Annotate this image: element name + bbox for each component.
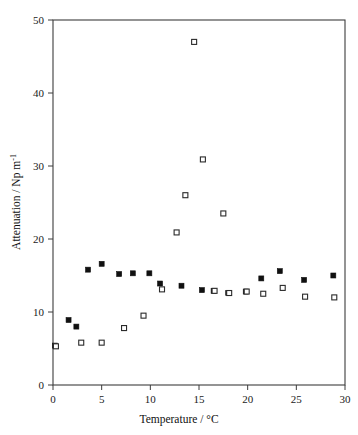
data-point-open-square bbox=[332, 295, 337, 300]
data-point-filled-square bbox=[99, 261, 104, 266]
data-point-open-square bbox=[227, 291, 232, 296]
data-point-open-square bbox=[79, 340, 84, 345]
data-point-open-square bbox=[200, 157, 205, 162]
data-point-open-square bbox=[192, 39, 197, 44]
y-tick-label: 20 bbox=[33, 233, 45, 245]
x-tick-label: 20 bbox=[242, 393, 254, 405]
data-point-filled-square bbox=[302, 277, 307, 282]
svg-text:Attenuation / Np m-1: Attenuation / Np m-1 bbox=[9, 154, 23, 250]
x-axis-ticks: 051015202530 bbox=[50, 385, 351, 405]
scatter-plot: 051015202530 01020304050 Temperature / °… bbox=[0, 0, 358, 435]
figure-container: 051015202530 01020304050 Temperature / °… bbox=[0, 0, 358, 435]
data-point-filled-square bbox=[147, 271, 152, 276]
y-tick-label: 10 bbox=[33, 306, 45, 318]
x-tick-label: 25 bbox=[291, 393, 303, 405]
plot-frame bbox=[53, 20, 345, 385]
data-point-open-square bbox=[122, 326, 127, 331]
data-point-filled-square bbox=[66, 318, 71, 323]
data-points-layer bbox=[52, 39, 336, 348]
y-tick-label: 40 bbox=[33, 87, 45, 99]
data-point-filled-square bbox=[86, 267, 91, 272]
data-point-filled-square bbox=[179, 283, 184, 288]
data-point-filled-square bbox=[277, 269, 282, 274]
data-point-open-square bbox=[53, 344, 58, 349]
data-point-open-square bbox=[280, 285, 285, 290]
y-axis-exponent-text: -1 bbox=[9, 154, 18, 161]
data-point-open-square bbox=[174, 230, 179, 235]
y-axis-title-text: Attenuation / Np m bbox=[10, 161, 23, 250]
x-tick-label: 0 bbox=[50, 393, 56, 405]
data-point-filled-square bbox=[331, 273, 336, 278]
y-tick-label: 50 bbox=[33, 14, 45, 26]
y-axis-title: Attenuation / Np m-1 bbox=[9, 154, 23, 250]
x-tick-label: 30 bbox=[340, 393, 352, 405]
data-point-open-square bbox=[303, 294, 308, 299]
y-tick-label: 30 bbox=[33, 160, 45, 172]
data-point-open-square bbox=[244, 289, 249, 294]
data-point-filled-square bbox=[259, 276, 264, 281]
data-point-open-square bbox=[221, 211, 226, 216]
data-point-open-square bbox=[99, 340, 104, 345]
svg-text:Temperature / °C: Temperature / °C bbox=[139, 413, 218, 426]
x-axis-units-text: °C bbox=[206, 413, 219, 425]
data-point-filled-square bbox=[74, 324, 79, 329]
data-point-filled-square bbox=[199, 288, 204, 293]
x-tick-label: 5 bbox=[99, 393, 105, 405]
data-point-open-square bbox=[261, 291, 266, 296]
y-tick-label: 0 bbox=[39, 379, 45, 391]
data-point-open-square bbox=[183, 193, 188, 198]
y-axis-ticks: 01020304050 bbox=[33, 14, 53, 391]
data-point-filled-square bbox=[117, 272, 122, 277]
data-point-open-square bbox=[212, 288, 217, 293]
data-point-open-square bbox=[141, 313, 146, 318]
x-axis-title-text: Temperature / bbox=[139, 413, 206, 426]
data-point-filled-square bbox=[158, 281, 163, 286]
x-axis-title: Temperature / °C bbox=[139, 413, 218, 426]
x-tick-label: 10 bbox=[145, 393, 157, 405]
data-point-filled-square bbox=[130, 271, 135, 276]
x-tick-label: 15 bbox=[194, 393, 206, 405]
data-point-open-square bbox=[160, 287, 165, 292]
